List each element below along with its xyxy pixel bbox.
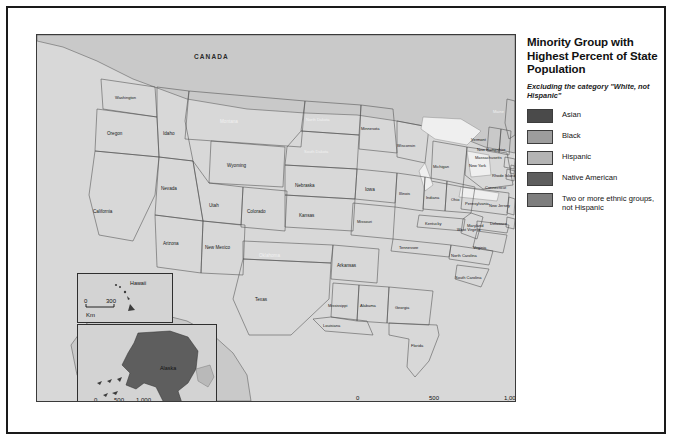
legend-item-black[interactable]: Black — [527, 130, 659, 144]
label-washington: Washington — [115, 95, 136, 100]
label-kentucky: Kentucky — [425, 221, 441, 226]
label-delaware: Delaware — [490, 221, 508, 226]
main-scale-tick-0: 0 — [356, 395, 360, 401]
label-vermont: Vermont — [471, 137, 487, 142]
label-alabama: Alabama — [360, 303, 377, 308]
label-oregon: Oregon — [107, 131, 123, 136]
label-north-dakota: North Dakota — [306, 117, 330, 122]
label-new-york: New York — [469, 163, 486, 168]
map-figure-frame: CANADA MEXICO — [6, 6, 666, 434]
label-nevada: Nevada — [161, 186, 177, 191]
hawaii-inset-svg: Hawaii 0 300 Km — [78, 274, 172, 322]
label-wyoming: Wyoming — [227, 163, 247, 168]
legend-subtitle: Excluding the category "White, not Hispa… — [527, 82, 659, 100]
main-scale-tick-500: 500 — [429, 395, 440, 401]
label-ohio: Ohio — [451, 197, 460, 202]
label-minnesota: Minnesota — [361, 126, 380, 131]
legend-swatch-black — [527, 130, 553, 144]
legend-swatch-native-american — [527, 172, 553, 186]
label-georgia: Georgia — [395, 305, 410, 310]
legend-title: Minority Group with Highest Percent of S… — [527, 36, 659, 77]
label-nebraska: Nebraska — [295, 183, 315, 188]
label-massachusetts: Massachusetts — [475, 155, 502, 160]
country-label-canada: CANADA — [194, 53, 229, 60]
label-connecticut: Connecticut — [485, 185, 507, 190]
label-maryland: Maryland — [467, 223, 483, 228]
label-texas: Texas — [255, 297, 268, 302]
hawaii-scale-tick-300: 300 — [106, 298, 117, 304]
legend-item-native-american[interactable]: Native American — [527, 172, 659, 186]
label-pennsylvania: Pennsylvania — [465, 201, 490, 206]
label-tennessee: Tennessee — [399, 245, 419, 250]
label-new-jersey: New Jersey — [489, 203, 510, 208]
hawaii-scale-unit: Km — [86, 312, 95, 318]
label-montana: Montana — [220, 119, 238, 124]
alaska-inset-svg: Alaska 0 500 1,000 Kilometers — [78, 325, 216, 402]
legend-swatch-asian — [527, 109, 553, 123]
label-idaho: Idaho — [163, 131, 175, 136]
label-hawaii: Hawaii — [130, 280, 146, 286]
legend-label-native-american: Native American — [562, 172, 617, 182]
main-scale-tick-1000: 1,000 — [504, 395, 516, 401]
label-missouri: Missouri — [357, 219, 372, 224]
label-virginia: Virginia — [473, 245, 487, 250]
label-utah: Utah — [209, 203, 219, 208]
main-scale-svg: 0 500 1,000 Kilometers — [355, 393, 516, 402]
label-florida: Florida — [411, 343, 424, 348]
label-indiana: Indiana — [426, 195, 440, 200]
label-mississippi: Mississippi — [328, 303, 347, 308]
hawaii-inset[interactable]: Hawaii 0 300 Km — [77, 273, 173, 323]
label-new-mexico: New Mexico — [205, 245, 230, 250]
main-map-panel[interactable]: CANADA MEXICO — [36, 34, 516, 402]
alaska-scale-tick-1000: 1,000 — [136, 397, 152, 402]
label-california: California — [93, 209, 113, 214]
hawaii-island-kauai — [115, 284, 117, 286]
label-iowa: Iowa — [365, 187, 375, 192]
label-louisiana: Louisiana — [323, 323, 341, 328]
label-michigan: Michigan — [433, 164, 449, 169]
label-alaska: Alaska — [160, 365, 176, 371]
legend-label-hispanic: Hispanic — [562, 151, 591, 161]
label-maine: Maine — [493, 109, 505, 114]
label-rhode-island: Rhode Island — [492, 173, 515, 178]
legend-swatch-two-or-more — [527, 193, 553, 207]
label-south-carolina: South Carolina — [455, 275, 482, 280]
label-wisconsin: Wisconsin — [397, 143, 415, 148]
label-arizona: Arizona — [163, 241, 179, 246]
legend-item-two-or-more[interactable]: Two or more ethnic groups, not Hispanic — [527, 193, 659, 213]
legend-label-two-or-more: Two or more ethnic groups, not Hispanic — [562, 193, 659, 213]
legend-item-hispanic[interactable]: Hispanic — [527, 151, 659, 165]
label-kansas: Kansas — [299, 213, 315, 218]
legend-item-asian[interactable]: Asian — [527, 109, 659, 123]
hawaii-island-molokai — [124, 291, 126, 293]
label-illinois: Illinois — [399, 191, 410, 196]
map-legend: Minority Group with Highest Percent of S… — [527, 36, 659, 219]
main-scale-bar: 0 500 1,000 Kilometers — [355, 393, 516, 402]
legend-label-black: Black — [562, 130, 581, 140]
legend-swatch-hispanic — [527, 151, 553, 165]
label-colorado: Colorado — [247, 209, 266, 214]
hawaii-island-oahu — [119, 286, 121, 288]
alaska-scale-tick-500: 500 — [114, 397, 125, 402]
alaska-inset[interactable]: Alaska 0 500 1,000 Kilometers — [77, 324, 217, 402]
legend-label-asian: Asian — [562, 109, 581, 119]
label-new-hampshire: New Hampshire — [477, 147, 506, 152]
label-south-dakota: South Dakota — [304, 149, 329, 154]
label-oklahoma: Oklahoma — [259, 253, 280, 258]
label-north-carolina: North Carolina — [451, 253, 478, 258]
label-arkansas: Arkansas — [337, 263, 357, 268]
